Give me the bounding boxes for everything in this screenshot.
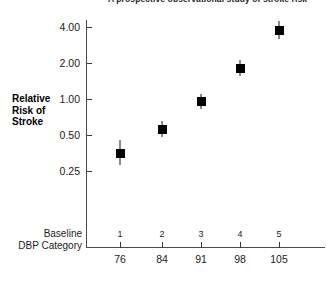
chart-title: A prospective observational study of str…: [95, 0, 320, 5]
x-axis-title-line-1: Baseline: [6, 228, 82, 240]
x-axis-category-label: 2: [150, 230, 174, 239]
y-axis-tick-label: 4.00: [40, 22, 80, 33]
x-axis-category-label: 3: [189, 230, 213, 239]
x-axis-value-label: 105: [262, 254, 296, 265]
x-axis-category-label: 5: [267, 230, 291, 239]
x-axis-value-label: 76: [103, 254, 137, 265]
x-axis-tick: [120, 242, 121, 248]
y-axis-tick-label: 2.00: [40, 58, 80, 69]
y-axis-tick: [87, 135, 92, 136]
x-axis-line: [86, 247, 325, 248]
x-axis-tick: [279, 242, 280, 248]
x-axis-category-label: 4: [228, 230, 252, 239]
x-axis-value-label: 98: [223, 254, 257, 265]
y-axis-tick: [87, 63, 92, 64]
y-axis-title-line-2: Risk of: [12, 105, 74, 117]
x-axis-tick: [162, 242, 163, 248]
y-axis-tick: [87, 27, 92, 28]
x-axis-title-line-2: DBP Category: [6, 240, 82, 252]
x-axis-tick: [201, 242, 202, 248]
x-axis-category-label: 1: [108, 230, 132, 239]
data-marker: [236, 64, 245, 73]
data-marker: [275, 26, 284, 35]
x-axis-tick: [240, 242, 241, 248]
x-axis-title: Baseline DBP Category: [6, 228, 82, 252]
y-axis-tick-label: 1.00: [40, 94, 80, 105]
data-marker: [197, 97, 206, 106]
data-marker: [158, 125, 167, 134]
chart-figure: A prospective observational study of str…: [0, 0, 326, 283]
y-axis-title-line-3: Stroke: [12, 116, 74, 128]
y-axis-tick: [87, 171, 92, 172]
y-axis-line: [86, 20, 87, 248]
y-axis-tick-label: 0.50: [40, 130, 80, 141]
data-marker: [116, 149, 125, 158]
y-axis-tick: [87, 99, 92, 100]
x-axis-value-label: 84: [145, 254, 179, 265]
x-axis-value-label: 91: [184, 254, 218, 265]
y-axis-tick-label: 0.25: [40, 166, 80, 177]
